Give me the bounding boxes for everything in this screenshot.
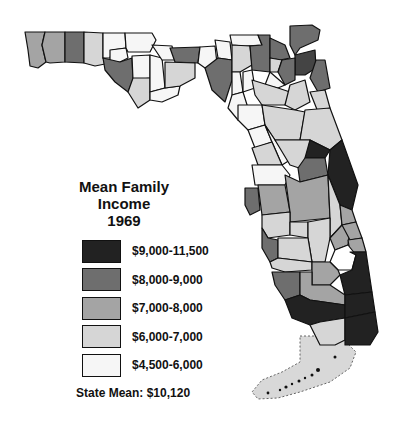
legend-label: $6,000-7,000: [132, 330, 203, 344]
county-leon: [170, 47, 200, 63]
legend-swatch: [82, 240, 121, 263]
county-lafayette: [232, 72, 243, 95]
legend-swatch: [82, 325, 121, 348]
legend-label: $8,000-9,000: [132, 273, 203, 287]
legend-item: $8,000-9,000: [82, 266, 238, 295]
legend-swatch: [82, 297, 121, 320]
legend-item: $6,000-7,000: [82, 323, 238, 352]
legend: Mean Family Income 1969 $9,000-11,500 $8…: [58, 178, 238, 400]
county-hamilton: [230, 35, 262, 46]
county-gulf: [128, 78, 150, 108]
legend-item: $7,000-8,000: [82, 294, 238, 323]
legend-title-line2: 1969: [54, 212, 194, 229]
county-putnam: [285, 80, 310, 110]
county-madison: [215, 40, 232, 60]
county-dade: [345, 312, 378, 345]
legend-item: $9,000-11,500: [82, 237, 238, 266]
state-mean: State Mean: $10,120: [76, 386, 238, 400]
legend-label: $9,000-11,500: [132, 244, 209, 258]
county-hillsborough: [258, 185, 290, 215]
county-taylor: [205, 58, 232, 102]
legend-swatch: [82, 268, 121, 291]
county-okaloosa: [65, 32, 84, 63]
county-baker: [270, 38, 290, 60]
county-pasco: [252, 165, 290, 185]
county-wakulla: [165, 62, 195, 88]
county-santa-rosa: [42, 32, 65, 63]
county-calhoun: [132, 55, 150, 80]
county-hardee: [290, 222, 308, 238]
legend-item: $4,500-6,000: [82, 351, 238, 380]
county-polk: [285, 175, 330, 222]
legend-swatch: [82, 354, 121, 377]
county-jackson: [125, 33, 156, 52]
legend-title: Mean Family Income 1969: [54, 178, 194, 229]
legend-label: $7,000-8,000: [132, 301, 203, 315]
florida-keys-region: [252, 336, 356, 399]
county-suwannee: [232, 45, 252, 72]
legend-label: $4,500-6,000: [132, 358, 203, 372]
county-bay: [103, 58, 133, 92]
legend-title-line1: Mean Family Income: [54, 178, 194, 212]
county-pinellas: [245, 188, 260, 215]
